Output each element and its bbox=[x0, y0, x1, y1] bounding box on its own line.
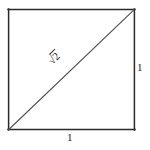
figure-drawing-surface bbox=[0, 0, 150, 150]
bottom-side-length-label: 1 bbox=[67, 132, 73, 143]
right-side-length-label: 1 bbox=[137, 62, 143, 73]
square-diagonal-line bbox=[9, 10, 134, 130]
geometry-figure: 1 1 √2 bbox=[0, 0, 150, 150]
